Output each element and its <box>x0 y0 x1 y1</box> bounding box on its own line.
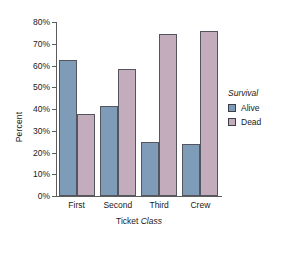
y-axis-tick-label: 10% <box>33 170 50 179</box>
y-axis-tick <box>52 153 56 154</box>
y-axis-tick-label: 70% <box>33 40 50 49</box>
y-axis-tick <box>52 66 56 67</box>
bar-third-alive <box>141 142 159 196</box>
x-axis-tick-label: Third <box>149 200 168 210</box>
legend-label-alive: Alive <box>241 103 259 113</box>
y-axis-tick <box>52 87 56 88</box>
x-axis-tick-label: Second <box>103 200 132 210</box>
bar-group <box>100 22 136 196</box>
bar-group <box>182 22 218 196</box>
y-axis-tick <box>52 109 56 110</box>
legend-title: Survival <box>228 88 261 98</box>
y-axis-tick-label: 40% <box>33 105 50 114</box>
bar-crew-dead <box>200 31 218 196</box>
y-axis-title: Percent <box>14 112 24 143</box>
y-axis-tick <box>52 131 56 132</box>
plot-area: 80%70%60%50%40%30%20%10%0% <box>56 22 221 196</box>
bar-third-dead <box>159 34 177 196</box>
y-axis-tick <box>52 44 56 45</box>
bar-second-alive <box>100 106 118 196</box>
bar-first-alive <box>59 60 77 196</box>
bar-group <box>141 22 177 196</box>
y-axis-tick-label: 60% <box>33 61 50 70</box>
legend-swatch-alive-icon <box>228 104 236 112</box>
y-axis-tick-label: 0% <box>38 192 50 201</box>
bar-crew-alive <box>182 144 200 196</box>
x-axis-title-plain: Ticket <box>116 216 138 226</box>
y-axis-tick-label: 20% <box>33 148 50 157</box>
x-axis-line <box>56 196 222 197</box>
x-axis-tick-label: Crew <box>190 200 210 210</box>
bar-second-dead <box>118 69 136 196</box>
legend-item-alive: Alive <box>228 103 261 113</box>
x-axis-tick-label: First <box>68 200 85 210</box>
bar-chart: Percent 80%70%60%50%40%30%20%10%0% First… <box>0 0 292 254</box>
bar-group <box>59 22 95 196</box>
y-axis-tick-label: 30% <box>33 127 50 136</box>
legend-swatch-dead-icon <box>228 118 236 126</box>
legend: Survival Alive Dead <box>228 88 261 131</box>
legend-item-dead: Dead <box>228 117 261 127</box>
y-axis-tick-label: 50% <box>33 83 50 92</box>
bar-first-dead <box>77 114 95 196</box>
y-axis-tick <box>52 22 56 23</box>
y-axis-tick <box>52 196 56 197</box>
y-axis-tick <box>52 174 56 175</box>
legend-label-dead: Dead <box>241 117 261 127</box>
x-axis-title-emphasis: Class <box>141 216 162 226</box>
x-axis-title: Ticket Class <box>56 216 222 226</box>
y-axis-tick-label: 80% <box>33 18 50 27</box>
